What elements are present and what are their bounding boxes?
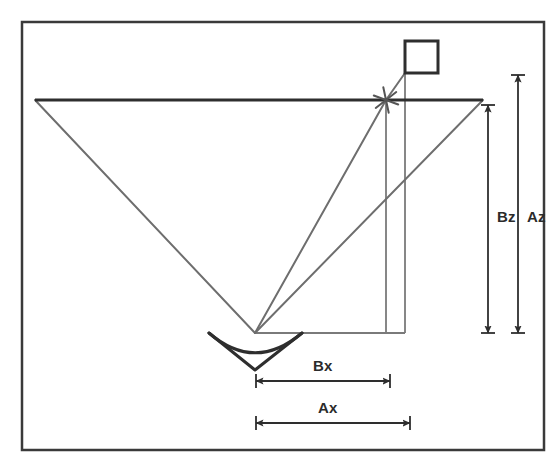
square-object-marker <box>405 41 438 73</box>
dimension-ax <box>256 416 410 430</box>
dimension-label-ax: Ax <box>318 400 338 415</box>
sensor-aperture-arc <box>209 333 302 353</box>
outer-frame <box>22 22 544 450</box>
geometry-diagram <box>0 0 559 475</box>
dimension-bx <box>256 374 390 388</box>
ray-left-edge <box>35 100 255 333</box>
diagram-canvas: Bz Az Bx Ax <box>0 0 559 475</box>
dimension-label-bx: Bx <box>313 358 333 373</box>
dimension-bz <box>481 105 495 333</box>
ray-target-to-square <box>386 73 405 100</box>
ray-right-edge <box>255 100 483 333</box>
ray-to-target-x <box>255 100 386 333</box>
dimension-label-az: Az <box>527 209 546 224</box>
sensor-symbol <box>209 333 302 370</box>
dimension-label-bz: Bz <box>497 209 516 224</box>
dimension-az <box>511 75 525 333</box>
